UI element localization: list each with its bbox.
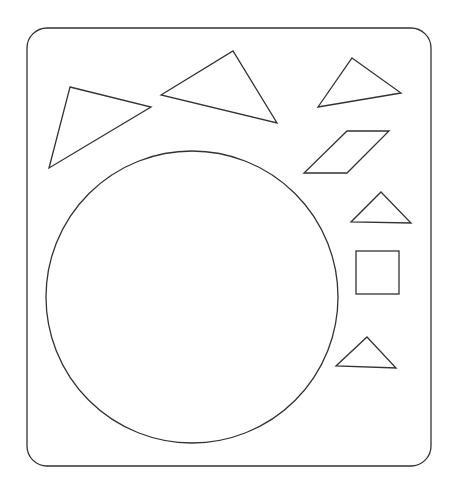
circle bbox=[46, 151, 338, 443]
square bbox=[356, 251, 399, 294]
shape-puzzle-board-diagram bbox=[0, 0, 457, 490]
